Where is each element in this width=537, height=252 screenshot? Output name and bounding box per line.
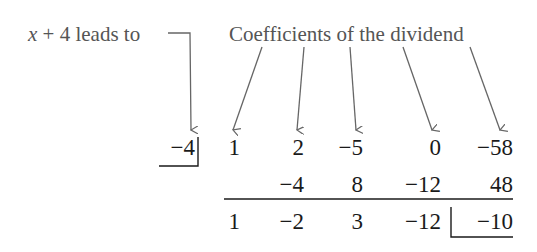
coef-3: −5 xyxy=(303,136,363,159)
arrow-coef-3 xyxy=(350,47,356,130)
product-5: 48 xyxy=(453,173,513,196)
coef-2: 2 xyxy=(244,136,304,159)
arrow-coef-1 xyxy=(233,47,262,130)
arrow-coef-5 xyxy=(470,47,500,130)
result-1: 1 xyxy=(180,210,240,233)
product-4: −12 xyxy=(381,173,441,196)
result-4: −12 xyxy=(381,210,441,233)
coef-5: −58 xyxy=(453,136,513,159)
coef-4: 0 xyxy=(381,136,441,159)
arrow-coef-4 xyxy=(403,47,432,130)
arrow-coef-2 xyxy=(297,47,304,130)
product-3: 8 xyxy=(303,173,363,196)
result-2: −2 xyxy=(244,210,304,233)
coef-1: 1 xyxy=(180,136,240,159)
product-2: −4 xyxy=(244,173,304,196)
result-3: 3 xyxy=(303,210,363,233)
divisor-arrow xyxy=(168,33,191,130)
remainder: −10 xyxy=(453,210,513,233)
